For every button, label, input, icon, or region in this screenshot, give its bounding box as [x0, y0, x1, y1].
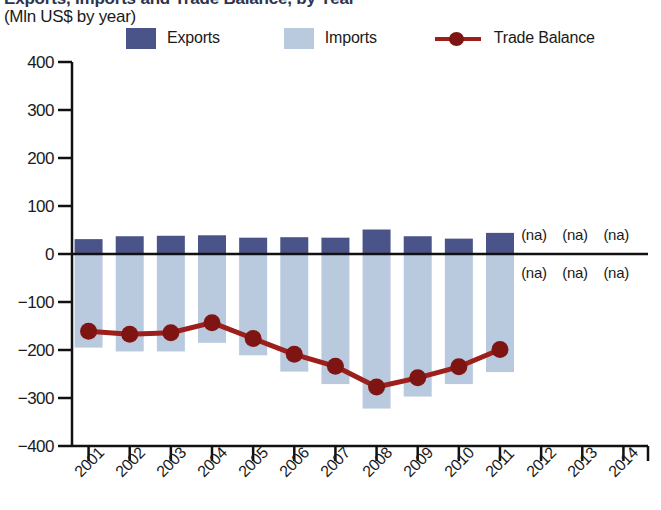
na-label-2013-below: (na) [562, 264, 587, 281]
trade-balance-point [327, 358, 344, 375]
trade-balance-point [204, 314, 221, 331]
exports-bar [116, 236, 144, 254]
trade-balance-point [450, 358, 467, 375]
axis-lines [58, 62, 648, 461]
exports-bar [239, 238, 267, 254]
na-label-2014-above: (na) [603, 226, 628, 243]
exports-bar [280, 237, 308, 254]
imports-bar-group [75, 254, 514, 409]
na-label-2012-below: (na) [521, 264, 546, 281]
trade-balance-point [121, 326, 138, 343]
trade-balance-point [286, 346, 303, 363]
trade-balance-point [245, 330, 262, 347]
trade-balance-point [80, 323, 97, 340]
exports-bar [404, 236, 432, 254]
exports-bar [198, 235, 226, 254]
exports-bar [75, 239, 103, 254]
exports-bar-group [75, 230, 514, 254]
na-label-2014-below: (na) [603, 264, 628, 281]
exports-bar [445, 239, 473, 254]
exports-bar [157, 236, 185, 254]
trade-balance-point [368, 378, 385, 395]
chart-container: Exports, Imports and Trade Balance, by Y… [0, 0, 661, 510]
trade-balance-point [409, 369, 426, 386]
exports-bar [363, 230, 391, 254]
na-label-2012-above: (na) [521, 226, 546, 243]
exports-bar [321, 238, 349, 254]
plot-area [0, 0, 661, 510]
trade-balance-point [492, 341, 509, 358]
exports-bar [486, 233, 514, 254]
trade-balance-point [162, 324, 179, 341]
na-label-2013-above: (na) [562, 226, 587, 243]
